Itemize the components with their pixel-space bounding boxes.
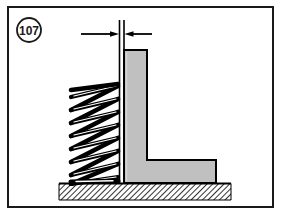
hatched-ground: [59, 184, 231, 201]
technical-illustration: 107: [0, 0, 282, 216]
figure-container: 107: [0, 0, 282, 216]
figure-number-label: 107: [19, 24, 39, 38]
figure-number-callout: 107: [17, 18, 41, 42]
spring-bottom-end-highlight: [76, 181, 113, 182]
ground-hatch-fill: [59, 184, 231, 200]
